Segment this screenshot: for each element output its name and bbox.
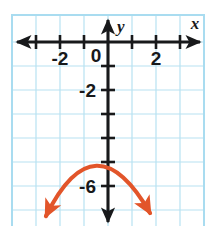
y-tick-label-neg6: -6: [79, 176, 96, 197]
y-axis-label: y: [115, 17, 125, 36]
graph-figure: y x 0 -2 2 -2 -6: [0, 0, 216, 226]
x-tick-label-neg2: -2: [52, 48, 69, 69]
x-axis-label: x: [190, 14, 200, 33]
y-tick-label-neg2: -2: [79, 80, 96, 101]
origin-label: 0: [91, 45, 102, 66]
coordinate-plane-svg: y x 0 -2 2 -2 -6: [0, 0, 216, 226]
x-tick-label-pos2: 2: [151, 48, 162, 69]
